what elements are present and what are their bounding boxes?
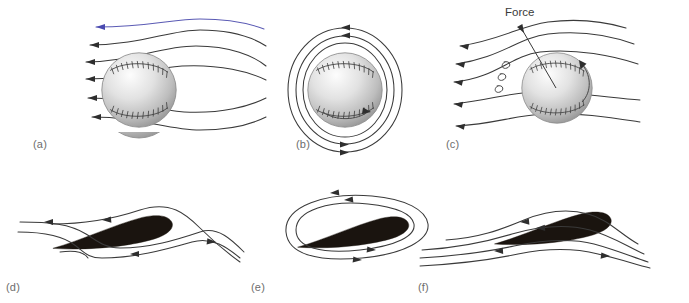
panel-d bbox=[18, 207, 244, 262]
turbulence-curls bbox=[495, 62, 510, 93]
baseball-a bbox=[102, 53, 176, 127]
panel-a-final bbox=[0, 0, 266, 132]
baseball-b bbox=[308, 53, 382, 127]
panel-label-f: (f) bbox=[418, 281, 429, 293]
airfoil-d bbox=[53, 216, 173, 249]
fluid-flow-figure: (a) (b) (c) (d) (e) (f) Force bbox=[0, 0, 689, 303]
airfoil-f bbox=[494, 212, 611, 245]
panel-b bbox=[288, 25, 402, 156]
panel-f bbox=[420, 211, 650, 268]
panel-label-c: (c) bbox=[446, 138, 459, 150]
force-label: Force bbox=[505, 6, 534, 18]
figure-canvas bbox=[0, 0, 689, 303]
panel-label-d: (d) bbox=[6, 281, 20, 293]
panel-label-b: (b) bbox=[296, 138, 310, 150]
panel-label-a: (a) bbox=[33, 138, 47, 150]
panel-label-e: (e) bbox=[251, 281, 265, 293]
panel-e bbox=[286, 189, 428, 262]
panel-c bbox=[454, 20, 640, 129]
